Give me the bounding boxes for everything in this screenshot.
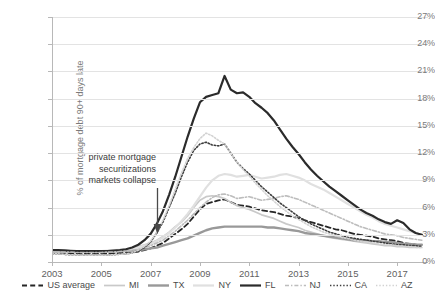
legend-swatch-tx [148,281,169,290]
top-margin [0,0,435,8]
gridline-24 [52,44,428,45]
gridline-27 [52,17,428,18]
x-tick-mark [348,262,349,266]
down-arrow-icon [152,188,163,234]
y-tick-mark [48,235,52,236]
x-tick-label-2011: 2011 [227,268,271,279]
x-tick-label-2015: 2015 [326,268,370,279]
x-axis-line [52,262,428,263]
gridline-21 [52,71,428,72]
annotation-line-3: markets collapse [60,175,156,187]
legend-label-nj: NJ [310,281,321,290]
y-tick-mark [48,208,52,209]
x-tick-label-2003: 2003 [30,268,74,279]
legend-swatch-fl [240,281,261,290]
plot-area: % of mortgage debt 90+ days late [52,17,428,262]
x-tick-label-2017: 2017 [375,268,419,279]
legend-label-ny: NY [218,281,231,290]
legend-item-az[interactable]: AZ [376,281,413,290]
x-tick-mark [200,262,201,266]
legend-item-nj[interactable]: NJ [285,281,321,290]
chart-legend: US averageMITXNYFLNJCAAZ [0,281,435,290]
legend-swatch-ny [193,281,214,290]
gridline-6 [52,208,428,209]
legend-item-tx[interactable]: TX [148,281,185,290]
y-tick-mark [48,180,52,181]
series-line-tx [52,227,422,252]
y-tick-label-15: 15% [389,121,435,130]
x-tick-mark [249,262,250,266]
gridline-3 [52,235,428,236]
y-tick-label-3: 3% [389,230,435,239]
x-tick-label-2009: 2009 [178,268,222,279]
mortgage-delinquency-line-chart: % of mortgage debt 90+ days late 0%3%6%9… [0,0,435,304]
legend-label-mi: MI [129,281,139,290]
y-tick-mark [48,71,52,72]
x-tick-mark [299,262,300,266]
legend-label-us-average: US average [47,281,95,290]
x-tick-label-2013: 2013 [277,268,321,279]
legend-item-ca[interactable]: CA [330,281,368,290]
legend-item-mi[interactable]: MI [104,281,139,290]
legend-swatch-us-average [22,281,43,290]
x-tick-mark [52,262,53,266]
x-tick-mark [397,262,398,266]
y-tick-mark [48,99,52,100]
y-tick-mark [48,126,52,127]
gridline-15 [52,126,428,127]
y-tick-label-12: 12% [389,148,435,157]
legend-swatch-mi [104,281,125,290]
series-lines-group [52,17,428,262]
x-tick-label-2007: 2007 [129,268,173,279]
y-axis-line [52,17,53,262]
y-tick-label-9: 9% [389,175,435,184]
annotation-line-1: private mortgage [60,152,156,164]
y-tick-label-18: 18% [389,94,435,103]
legend-swatch-az [376,281,397,290]
series-line-mi [52,196,422,252]
y-tick-label-21: 21% [389,66,435,75]
legend-item-fl[interactable]: FL [240,281,276,290]
legend-label-ca: CA [355,281,368,290]
annotation-text: private mortgage securitizations markets… [60,152,156,187]
x-tick-mark [101,262,102,266]
legend-item-ny[interactable]: NY [193,281,231,290]
legend-swatch-ca [330,281,351,290]
x-tick-mark [151,262,152,266]
legend-label-fl: FL [265,281,276,290]
legend-label-tx: TX [173,281,185,290]
y-tick-mark [48,17,52,18]
y-tick-label-24: 24% [389,39,435,48]
y-tick-label-6: 6% [389,203,435,212]
y-tick-label-0: 0% [389,257,435,266]
legend-item-us-average[interactable]: US average [22,281,95,290]
gridline-18 [52,99,428,100]
y-tick-mark [48,153,52,154]
annotation-line-2: securitizations [60,164,156,176]
y-tick-label-27: 27% [389,12,435,21]
legend-label-az: AZ [401,281,413,290]
y-tick-mark [48,44,52,45]
x-tick-label-2005: 2005 [79,268,123,279]
legend-swatch-nj [285,281,306,290]
